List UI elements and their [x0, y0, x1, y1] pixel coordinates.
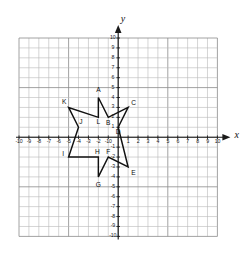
y-tick-label: -5: [111, 184, 115, 189]
y-tick-label: -7: [111, 204, 115, 209]
y-tick-label: 2: [111, 115, 114, 120]
y-tick-label: -4: [111, 174, 115, 179]
x-tick-label: 6: [176, 140, 179, 145]
x-tick-label: -6: [57, 140, 61, 145]
vertex-label-c: C: [131, 100, 136, 107]
x-tick-label: -5: [66, 140, 70, 145]
y-tick-label: -10: [109, 234, 116, 239]
x-tick-label: 1: [127, 140, 130, 145]
x-tick-label: 4: [157, 140, 160, 145]
x-tick-label: 7: [186, 140, 189, 145]
y-tick-label: -8: [111, 214, 115, 219]
vertex-label-j: J: [79, 119, 82, 126]
x-tick-label: 9: [206, 140, 209, 145]
y-axis-label: y: [121, 14, 125, 24]
y-tick-label: 9: [111, 45, 114, 50]
vertex-label-h: H: [95, 148, 100, 155]
x-tick-label: -9: [27, 140, 31, 145]
axis-lines: [16, 25, 230, 239]
y-tick-label: 10: [110, 35, 115, 40]
y-tick-label: -3: [111, 164, 115, 169]
vertex-label-f: F: [106, 148, 110, 155]
vertex-label-i: I: [62, 150, 64, 157]
x-axis-label: x: [234, 130, 238, 140]
y-tick-label: 8: [111, 55, 114, 60]
x-tick-label: 2: [137, 140, 140, 145]
y-tick-label: 1: [111, 125, 114, 130]
y-tick-label: 4: [111, 95, 114, 100]
y-tick-label: -2: [111, 154, 115, 159]
x-tick-label: -8: [37, 140, 41, 145]
x-tick-label: -3: [86, 140, 90, 145]
y-tick-label: 7: [111, 65, 114, 70]
vertex-label-g: G: [96, 182, 101, 189]
vertex-label-k: K: [62, 99, 66, 106]
x-tick-label: 8: [196, 140, 199, 145]
y-tick-label: -1: [111, 145, 115, 150]
y-tick-label: 5: [111, 85, 114, 90]
coordinate-plane-figure: -10-9-8-7-6-5-4-3-2-10123456789101098765…: [0, 0, 250, 259]
x-tick-label: -4: [76, 140, 80, 145]
vertex-label-l: L: [97, 119, 101, 126]
x-tick-label: -2: [96, 140, 100, 145]
y-tick-label: 3: [111, 105, 114, 110]
x-tick-label: 5: [166, 140, 169, 145]
x-tick-label: -7: [47, 140, 51, 145]
vertex-label-e: E: [131, 170, 135, 177]
grid-and-shape-canvas: [0, 0, 250, 259]
x-tick-label: 10: [215, 140, 220, 145]
y-tick-label: -6: [111, 194, 115, 199]
vertex-label-d: D: [116, 129, 121, 136]
x-tick-label: 3: [147, 140, 150, 145]
y-tick-label: -9: [111, 224, 115, 229]
vertex-label-b: B: [106, 120, 110, 127]
vertex-label-a: A: [96, 87, 100, 94]
x-tick-label: -10: [16, 140, 23, 145]
y-tick-label: 6: [111, 75, 114, 80]
